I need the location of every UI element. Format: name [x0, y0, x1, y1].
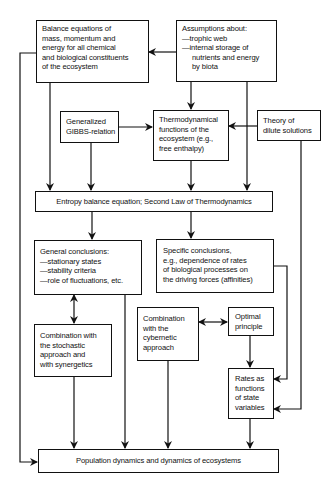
- node-text: General conclusions:: [40, 247, 136, 257]
- node-specific-conclusions: Specific conclusions, e.g., dependence o…: [156, 239, 274, 293]
- node-text: Theory of: [263, 116, 315, 126]
- node-text: with synergetics: [40, 360, 106, 370]
- node-text: principle: [235, 322, 267, 332]
- node-text: Rates as: [235, 374, 267, 384]
- node-text: Combination: [143, 314, 193, 324]
- node-text: energy for all chemical: [42, 43, 143, 53]
- node-text: ecosystem (e.g.,: [159, 134, 223, 144]
- node-text: and biological constituents: [42, 53, 143, 63]
- node-text: —role of fluctuations, etc.: [40, 276, 136, 286]
- node-text: Population dynamics and dynamics of ecos…: [76, 456, 241, 466]
- node-text: —stationary states: [40, 257, 136, 267]
- node-text: of state: [235, 393, 267, 403]
- node-text: cybernetic: [143, 333, 193, 343]
- node-text: of biological processes on: [163, 265, 267, 275]
- node-text: Specific conclusions,: [163, 246, 267, 256]
- node-text: Assumptions about:: [182, 24, 271, 34]
- node-entropy-balance: Entropy balance equation; Second Law of …: [35, 191, 273, 212]
- node-text: Entropy balance equation; Second Law of …: [56, 197, 251, 207]
- node-rates-functions: Rates as functions of state variables: [228, 368, 274, 419]
- node-text: Optimal: [235, 312, 267, 322]
- node-text: of the ecosystem: [42, 62, 143, 72]
- node-text: GIBBS-relation: [66, 127, 113, 137]
- node-stochastic-combination: Combination with the stochastic approach…: [34, 324, 112, 377]
- node-text: the stochastic: [40, 341, 106, 351]
- node-optimal-principle: Optimal principle: [228, 307, 274, 336]
- node-text: by biota: [182, 62, 271, 72]
- node-cybernetic-combination: Combination with the cybernetic approach: [137, 307, 199, 361]
- node-text: Combination with: [40, 331, 106, 341]
- node-text: dilute solutions: [263, 126, 315, 136]
- node-text: —internal storage of: [182, 43, 271, 53]
- node-text: e.g., dependence of rates: [163, 256, 267, 266]
- node-text: Balance equations of: [42, 24, 143, 34]
- node-text: variables: [235, 403, 267, 413]
- node-assumptions: Assumptions about: —trophic web —interna…: [176, 20, 277, 82]
- node-text: with the: [143, 324, 193, 334]
- node-text: Generalized: [66, 117, 113, 127]
- node-dilute-solutions: Theory of dilute solutions: [257, 110, 321, 141]
- node-balance-equations: Balance equations of mass, momentum and …: [36, 20, 149, 83]
- node-text: functions of the: [159, 125, 223, 135]
- node-text: —stability criteria: [40, 266, 136, 276]
- node-text: —trophic web: [182, 34, 271, 44]
- node-population-dynamics: Population dynamics and dynamics of ecos…: [38, 449, 279, 473]
- edge-specific-rates: [273, 266, 287, 379]
- node-text: approach and: [40, 350, 106, 360]
- node-text: free enthalpy): [159, 144, 223, 154]
- node-gibbs-relation: Generalized GIBBS-relation: [60, 111, 119, 143]
- node-text: the driving forces (affinities): [163, 275, 267, 285]
- node-text: approach: [143, 343, 193, 353]
- node-text: Thermodynamical: [159, 115, 223, 125]
- node-text: functions: [235, 384, 267, 394]
- node-text: mass, momentum and: [42, 34, 143, 44]
- node-general-conclusions: General conclusions: —stationary states …: [34, 240, 142, 295]
- node-thermodynamical-functions: Thermodynamical functions of the ecosyst…: [153, 110, 229, 161]
- node-text: nutrients and energy: [182, 53, 271, 63]
